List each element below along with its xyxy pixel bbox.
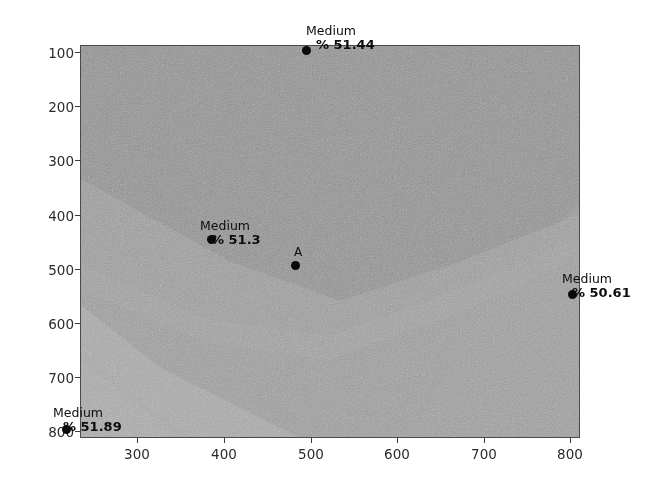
xtick-label-500: 500: [286, 446, 336, 462]
ytick-mark-200: [75, 106, 80, 107]
xtick-label-800: 800: [545, 446, 595, 462]
xtick-mark-600: [397, 438, 398, 443]
xtick-mark-500: [311, 438, 312, 443]
ytick-label-700: 700: [28, 370, 74, 386]
ytick-mark-600: [75, 323, 80, 324]
xtick-label-700: 700: [459, 446, 509, 462]
annotation-middle-value: % 51.3: [211, 233, 261, 247]
data-point-marker-middle[interactable]: [207, 235, 216, 244]
annotation-top-value: % 51.44: [316, 38, 375, 52]
data-point-marker-a[interactable]: [291, 261, 300, 270]
xtick-mark-400: [224, 438, 225, 443]
ytick-label-400: 400: [28, 208, 74, 224]
annotation-top: Medium % 51.44: [306, 24, 375, 52]
data-point-marker-right[interactable]: [568, 290, 577, 299]
xtick-mark-300: [137, 438, 138, 443]
ytick-label-300: 300: [28, 153, 74, 169]
xtick-label-300: 300: [112, 446, 162, 462]
annotation-top-title: Medium: [306, 24, 375, 38]
annotation-bottom-title: Medium: [53, 406, 122, 420]
xtick-mark-700: [484, 438, 485, 443]
annotation-middle-title: Medium: [200, 219, 261, 233]
annotation-right-title: Medium: [562, 272, 631, 286]
xtick-label-400: 400: [199, 446, 249, 462]
data-point-marker-bottom[interactable]: [62, 425, 71, 434]
annotation-bottom-value: % 51.89: [63, 420, 122, 434]
ytick-mark-400: [75, 215, 80, 216]
ytick-label-600: 600: [28, 316, 74, 332]
data-point-label-a: A: [294, 245, 302, 259]
annotation-right-value: % 50.61: [572, 286, 631, 300]
data-point-marker-top[interactable]: [302, 46, 311, 55]
raster-image-plot: [80, 45, 580, 438]
figure-canvas: 100 200 300 400 500 600 700 800 300 400 …: [0, 0, 668, 504]
ytick-mark-500: [75, 269, 80, 270]
ytick-label-100: 100: [28, 45, 74, 61]
ytick-mark-300: [75, 160, 80, 161]
ytick-mark-100: [75, 52, 80, 53]
ytick-label-200: 200: [28, 99, 74, 115]
xtick-label-600: 600: [372, 446, 422, 462]
ytick-label-500: 500: [28, 262, 74, 278]
ytick-mark-700: [75, 377, 80, 378]
xtick-mark-800: [570, 438, 571, 443]
